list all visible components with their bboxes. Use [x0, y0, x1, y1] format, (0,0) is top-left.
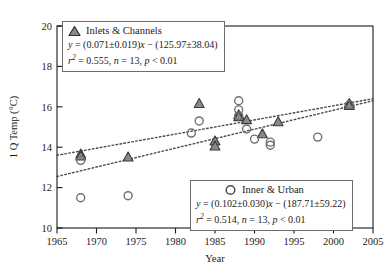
x-tick-label: 2005: [363, 236, 384, 247]
y-tick-label: 18: [42, 61, 53, 72]
triangle-icon: [68, 25, 81, 37]
legend-inner-label: Inner & Urban: [242, 184, 304, 196]
y-tick-label: 14: [42, 142, 53, 153]
legend-inner-stats: r2 = 0.514, n = 13, p < 0.01: [196, 210, 346, 226]
y-tick-label: 12: [42, 182, 53, 193]
y-tick-label: 20: [42, 21, 53, 32]
legend-inlets-and-channels: Inlets & Channels y = (0.071±0.019)x − (…: [62, 21, 225, 72]
x-tick-labels: 1965 1970 1975 1980 1985 1990 1995 2000 …: [47, 236, 384, 247]
x-tick-label: 1985: [205, 236, 226, 247]
x-tick-label: 2000: [323, 236, 344, 247]
x-tick-label: 1975: [126, 236, 147, 247]
x-tick-label: 1995: [284, 236, 305, 247]
legend-inlets-equation: y = (0.071±0.019)x − (125.97±38.04): [68, 38, 218, 51]
stats-r-value: = 0.555,: [76, 55, 114, 66]
y-tick-labels: 10 12 14 16 18 20: [42, 21, 53, 234]
circle-icon: [224, 184, 237, 196]
stats-p-value: < 0.01: [149, 55, 177, 66]
y-tick-label: 16: [42, 102, 53, 113]
eq-tail: − (125.97±38.04): [145, 39, 218, 50]
y-tick-label: 10: [42, 223, 53, 234]
x-tick-label: 1990: [244, 236, 265, 247]
stats-n-value: = 13,: [119, 55, 145, 66]
chart-figure: 10 12 14 16 18 20 1965 1970 1975 1980 19…: [0, 0, 390, 276]
y-axis-title: 1 Q Temp (°C): [8, 95, 20, 158]
legend-inlets-stats: r2 = 0.555, n = 13, p < 0.01: [68, 51, 218, 67]
legend-inner-equation: y = (0.102±0.030)x − (187.71±59.22): [196, 197, 346, 210]
eq-body: = (0.102±0.030): [200, 198, 268, 209]
stats-n-value: = 13,: [247, 214, 273, 225]
eq-tail: − (187.71±59.22): [273, 198, 346, 209]
stats-p-value: < 0.01: [277, 214, 305, 225]
eq-body: = (0.071±0.019): [72, 39, 140, 50]
x-tick-label: 1980: [165, 236, 186, 247]
legend-inlets-label: Inlets & Channels: [86, 25, 162, 37]
x-tick-label: 1965: [47, 236, 68, 247]
legend-inlets-title-row: Inlets & Channels: [68, 25, 218, 37]
legend-inner-and-urban: Inner & Urban y = (0.102±0.030)x − (187.…: [190, 180, 353, 231]
stats-r-value: = 0.514,: [204, 214, 242, 225]
x-tick-label: 1970: [86, 236, 107, 247]
legend-inner-title-row: Inner & Urban: [196, 184, 346, 196]
x-axis-title: Year: [205, 253, 225, 264]
